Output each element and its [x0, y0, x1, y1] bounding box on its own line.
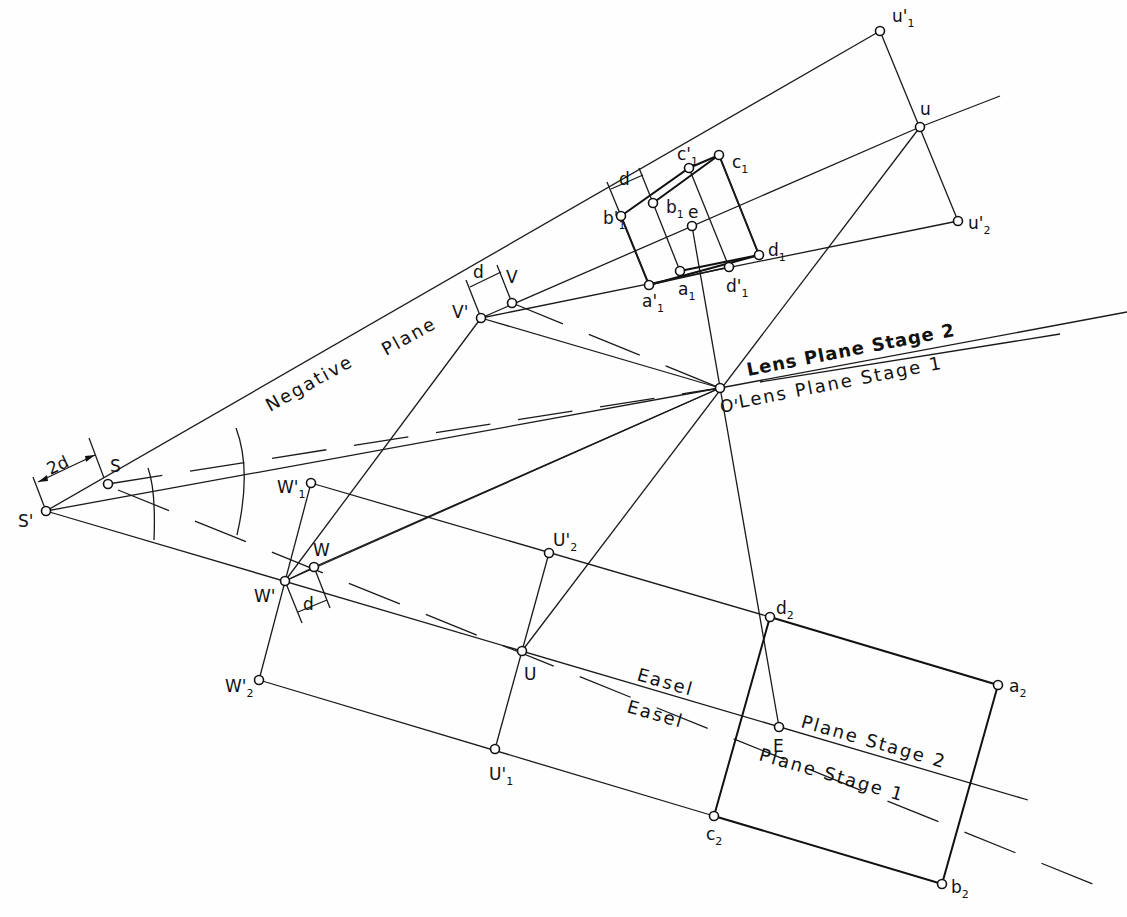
v-to-oprime-dashed-line — [512, 303, 720, 388]
point-label: u'1 — [892, 6, 914, 30]
diagram-canvas: 2d d d d Negative Plane Lens Plane Stage… — [0, 0, 1127, 917]
point-marker-icon — [916, 123, 925, 132]
point-label: V' — [452, 302, 468, 322]
s-to-oprime-dashed-line — [108, 388, 720, 484]
point-label: E — [773, 736, 784, 756]
angle-arc-large — [236, 428, 244, 535]
point-label: a'1 — [642, 291, 664, 315]
point-marker-icon — [477, 314, 486, 323]
point-W_prime: W' — [254, 577, 290, 607]
point-label: u'2 — [968, 213, 990, 237]
plane-labels: Negative Plane Lens Plane Stage 2 Lens P… — [262, 312, 957, 805]
point-marker-icon — [725, 263, 734, 272]
point-label: u — [920, 99, 931, 119]
point-U2_prime: U'2 — [545, 530, 578, 558]
point-d1: d1 — [755, 240, 786, 264]
dim-dv-label: d — [473, 262, 484, 282]
point-label: c1 — [732, 152, 748, 176]
point-label: d2 — [776, 598, 794, 622]
u-extension-line — [920, 96, 1000, 127]
point-O_prime: O' — [716, 384, 739, 417]
point-E: E — [773, 723, 784, 757]
point-u1_prime: u'1 — [876, 6, 915, 36]
point-label: d'1 — [726, 276, 748, 300]
point-label: W' — [254, 586, 275, 606]
negative-plane-line — [46, 31, 880, 511]
point-a1_prime: a'1 — [642, 281, 664, 316]
arrow-icon — [38, 475, 48, 482]
dim-2d-ext-left — [33, 477, 46, 511]
point-marker-icon — [518, 647, 527, 656]
point-marker-icon — [645, 281, 654, 290]
construction-lines — [46, 31, 1127, 893]
point-label: d1 — [768, 240, 786, 264]
point-marker-icon — [649, 199, 658, 208]
point-S_prime: S' — [18, 507, 51, 532]
point-label: U'2 — [553, 530, 577, 554]
point-W: W — [310, 540, 331, 572]
point-u: u — [916, 99, 931, 132]
point-label: W'2 — [225, 676, 253, 700]
point-marker-icon — [716, 384, 725, 393]
point-c1_prime: c'1 — [677, 144, 698, 173]
point-marker-icon — [281, 577, 290, 586]
easel-plane-stage1-dashed-line — [118, 490, 1115, 893]
point-b1: b1 — [649, 197, 684, 221]
point-a1: a1 — [676, 267, 696, 304]
point-markers: S'SV'VO'W'1WW'W'2U'2UU'1u'1uu'2c'1c1b'1b… — [18, 6, 1026, 901]
point-b1_prime: b'1 — [603, 208, 626, 232]
point-label: b1 — [666, 197, 684, 221]
point-V: V — [506, 267, 518, 308]
easel-image-figure — [714, 617, 998, 884]
point-marker-icon — [994, 681, 1003, 690]
point-e: e — [688, 202, 699, 231]
point-W2_prime: W'2 — [225, 676, 264, 701]
point-marker-icon — [676, 267, 685, 276]
point-label: U'1 — [489, 764, 513, 788]
dim-2d-label: 2d — [44, 451, 72, 478]
point-U: U — [518, 647, 537, 685]
vprime-to-oprime-line — [481, 318, 720, 388]
point-marker-icon — [954, 217, 963, 226]
perspective-rectification-diagram: 2d d d d Negative Plane Lens Plane Stage… — [0, 0, 1127, 917]
point-c1: c1 — [715, 151, 749, 177]
point-label: a2 — [1009, 676, 1026, 700]
point-V_prime: V' — [452, 302, 486, 323]
point-label: a1 — [678, 279, 695, 303]
e-to-E-line — [692, 226, 779, 727]
point-marker-icon — [307, 479, 316, 488]
point-marker-icon — [938, 880, 947, 889]
point-marker-icon — [508, 299, 517, 308]
point-label: U — [524, 664, 536, 684]
point-marker-icon — [766, 613, 775, 622]
negative-plane-label: Plane — [378, 312, 440, 359]
point-marker-icon — [255, 676, 264, 685]
point-label: O' — [720, 396, 738, 416]
arrow-icon — [85, 455, 95, 462]
easel-stage1-label: Easel — [625, 696, 686, 732]
easel-plane-stage2-line — [46, 511, 1028, 800]
point-a2: a2 — [994, 676, 1027, 700]
point-marker-icon — [876, 27, 885, 36]
point-marker-icon — [104, 480, 113, 489]
point-marker-icon — [491, 745, 500, 754]
dim-dtop-label: d — [619, 169, 630, 189]
point-marker-icon — [688, 222, 697, 231]
w1prime-to-d2-line — [311, 483, 770, 617]
point-u2_prime: u'2 — [954, 213, 991, 237]
point-d2: d2 — [766, 598, 794, 622]
point-label: e — [688, 202, 698, 222]
point-marker-icon — [42, 507, 51, 516]
point-marker-icon — [755, 251, 764, 260]
point-b2: b2 — [938, 877, 969, 901]
point-marker-icon — [715, 151, 724, 160]
dim-2d-ext-right — [89, 438, 104, 478]
point-marker-icon — [710, 812, 719, 821]
oprime-to-wprime-line — [285, 388, 720, 581]
point-label: S — [110, 456, 121, 476]
point-label: W — [313, 540, 330, 560]
lens-plane-stage2-line — [720, 312, 1127, 388]
point-label: c2 — [706, 824, 722, 848]
point-U1_prime: U'1 — [489, 745, 513, 789]
dim-dw-ext-left — [285, 581, 302, 623]
